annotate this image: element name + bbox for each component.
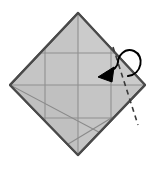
origami-diagram [0,0,153,169]
fold-diagram-svg [0,0,153,169]
